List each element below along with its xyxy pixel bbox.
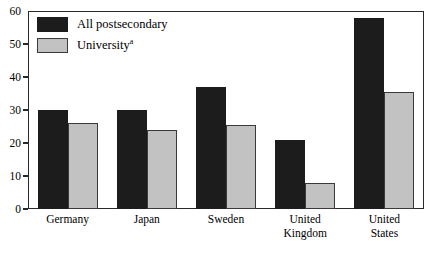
legend-label-superscript: a: [130, 37, 134, 46]
y-axis-tick: 0: [0, 202, 28, 216]
bar-united-kingdom-university: [305, 183, 335, 209]
y-axis-tick-label: 10: [10, 169, 22, 183]
x-axis-label-germany: Germany: [28, 212, 107, 226]
legend-label: All postsecondary: [77, 17, 168, 32]
bar-germany-university: [68, 123, 98, 209]
y-axis-tick: 60: [0, 4, 28, 18]
x-axis-label-japan: Japan: [107, 212, 186, 226]
x-axis-label-line: United: [266, 212, 345, 226]
bar-japan-all-postsecondary: [117, 110, 147, 209]
y-axis-tick: 50: [0, 37, 28, 51]
x-axis-label-line: United: [345, 212, 424, 226]
legend-swatch-light: [37, 38, 68, 53]
y-axis-tick-label: 20: [10, 136, 22, 150]
x-axis-label-line: Japan: [107, 212, 186, 226]
bar-japan-university: [147, 130, 177, 209]
legend-swatch-dark: [37, 17, 68, 32]
y-axis-tick-label: 40: [10, 70, 22, 84]
bar-sweden-all-postsecondary: [196, 87, 226, 209]
legend-label-text: All postsecondary: [77, 17, 168, 31]
y-axis: 6050403020100: [0, 0, 28, 220]
x-axis-label-line: Kingdom: [266, 226, 345, 240]
y-axis-tick: 10: [0, 169, 28, 183]
y-axis-tick-label: 60: [10, 4, 22, 18]
chart-legend: All postsecondaryUniversitya: [37, 14, 207, 56]
legend-item-university: Universitya: [37, 35, 207, 56]
x-axis-label-line: Sweden: [186, 212, 265, 226]
y-axis-tick: 40: [0, 70, 28, 84]
bar-united-states-university: [384, 92, 414, 209]
bar-united-states-all-postsecondary: [354, 18, 384, 209]
legend-label-text: University: [77, 38, 130, 52]
x-axis-label-united-kingdom: UnitedKingdom: [266, 212, 345, 240]
y-axis-tick-label: 30: [10, 103, 22, 117]
x-axis-label-sweden: Sweden: [186, 212, 265, 226]
bar-united-kingdom-all-postsecondary: [275, 140, 305, 209]
y-axis-tick: 20: [0, 136, 28, 150]
x-axis-label-line: Germany: [28, 212, 107, 226]
x-axis-label-line: States: [345, 226, 424, 240]
y-axis-tick-label: 0: [15, 202, 21, 216]
legend-item-all-postsecondary: All postsecondary: [37, 14, 207, 35]
bar-chart: 6050403020100 GermanyJapanSwedenUnitedKi…: [0, 0, 428, 255]
bar-sweden-university: [226, 125, 256, 209]
bar-germany-all-postsecondary: [38, 110, 68, 209]
y-axis-tick-label: 50: [10, 37, 22, 51]
legend-label: Universitya: [77, 38, 133, 53]
x-axis-label-united-states: UnitedStates: [345, 212, 424, 240]
x-axis-labels: GermanyJapanSwedenUnitedKingdomUnitedSta…: [28, 212, 424, 254]
y-axis-tick: 30: [0, 103, 28, 117]
